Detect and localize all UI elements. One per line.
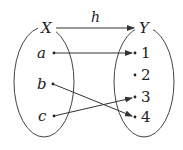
mapping-diagram: X Y h a b c 1 2 3 4 <box>0 0 183 150</box>
codomain-dot-2 <box>134 74 137 77</box>
codomain-element-2: 2 <box>141 66 151 84</box>
codomain-element-4: 4 <box>141 108 151 126</box>
codomain-element-3: 3 <box>141 88 151 106</box>
domain-element-b: b <box>37 75 47 93</box>
codomain-dot-3 <box>134 96 137 99</box>
codomain-dot-4 <box>134 116 137 119</box>
codomain-dot-1 <box>134 52 137 55</box>
codomain-element-1: 1 <box>141 44 151 62</box>
domain-element-a: a <box>37 44 46 62</box>
domain-set-label: X <box>40 19 53 37</box>
mapping-arrow-b-4 <box>53 84 132 116</box>
function-label: h <box>91 9 100 25</box>
domain-element-c: c <box>38 107 47 125</box>
